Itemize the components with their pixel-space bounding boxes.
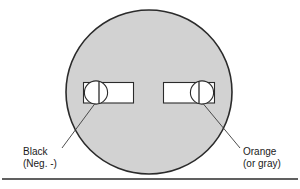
label-black-terminal: Black (Neg. -) (23, 146, 57, 170)
label-black-line2: (Neg. -) (23, 158, 57, 170)
label-orange-terminal: Orange (or gray) (243, 146, 281, 170)
left-terminal (84, 81, 134, 104)
label-orange-line1: Orange (243, 146, 281, 158)
battery-terminal-polarity-diagram: Black (Neg. -) Orange (or gray) (0, 0, 300, 189)
left-terminal-post-circle (84, 81, 107, 104)
label-orange-line2: (or gray) (243, 158, 281, 170)
label-black-line1: Black (23, 146, 57, 158)
right-terminal-post-circle (190, 81, 213, 104)
right-terminal (164, 81, 215, 104)
